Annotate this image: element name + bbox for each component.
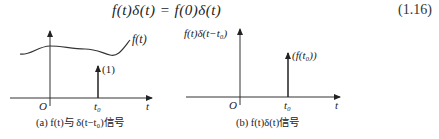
a-origin-label: O [39,100,47,112]
a-t0-label: t₀ [94,100,101,112]
a-axis-label: t [146,100,150,112]
b-origin-label: O [229,99,237,111]
b-t0-label: t₀ [284,99,291,111]
figure-diagrams: f(t) (1) O t₀ t (a) f(t)与 δ(t−t₀)信号 f(t)… [0,0,439,139]
a-curve-label: f(t) [132,32,147,46]
a-caption: (a) f(t)与 δ(t−t₀)信号 [36,117,124,129]
a-signal-curve [20,40,130,55]
a-impulse-label: (1) [102,63,115,76]
figure-b: f(t)δ(t−t₀) (f(t₀)) O t₀ t (b) f(t)δ(t)信… [184,27,340,129]
b-y-axis-label: f(t)δ(t−t₀) [184,27,228,40]
figure-a: f(t) (1) O t₀ t (a) f(t)与 δ(t−t₀)信号 [10,31,152,129]
b-impulse-label: (f(t₀)) [292,49,317,62]
b-caption: (b) f(t)δ(t)信号 [236,117,299,129]
b-axis-label: t [335,99,339,111]
